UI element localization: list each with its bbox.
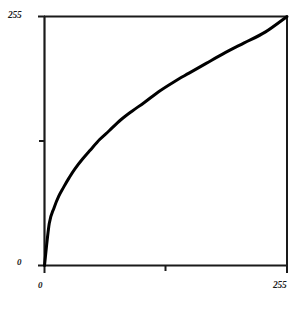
gamma-curve-line [45, 17, 288, 266]
y-axis-min-label: 0 [17, 258, 21, 267]
axis-frame [44, 16, 288, 266]
plot-canvas [0, 0, 307, 311]
x-axis-max-label: 255 [273, 281, 287, 291]
axis-ticks [38, 17, 287, 274]
x-axis-min-label: 0 [38, 281, 42, 290]
y-axis-max-label: 255 [8, 11, 22, 21]
gamma-curve-figure: 255 0 0 255 [0, 0, 307, 311]
